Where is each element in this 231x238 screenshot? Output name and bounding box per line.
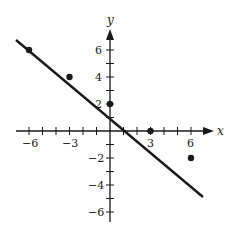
x-axis-arrow-icon: [203, 127, 214, 135]
x-tick-label: 6: [187, 137, 194, 150]
y-tick-label: −2: [88, 152, 104, 165]
x-tick-label: −6: [22, 137, 38, 150]
data-point: [147, 128, 153, 134]
y-axis-label: y: [106, 13, 114, 27]
y-tick-label: −4: [88, 179, 104, 192]
data-point: [107, 101, 113, 107]
data-point: [26, 47, 32, 53]
y-tick-label: −6: [88, 206, 104, 219]
y-tick-label: 6: [95, 44, 102, 57]
y-tick-label: 4: [95, 71, 102, 84]
x-tick-label: 3: [147, 137, 154, 150]
data-point: [188, 155, 194, 161]
coordinate-plane: x y −6 −3 3 6 6 4 2 −2: [0, 0, 231, 238]
x-tick-label: −3: [62, 137, 78, 150]
data-point: [66, 74, 72, 80]
x-axis-label: x: [217, 124, 224, 138]
y-axis-arrow-icon: [106, 29, 114, 40]
